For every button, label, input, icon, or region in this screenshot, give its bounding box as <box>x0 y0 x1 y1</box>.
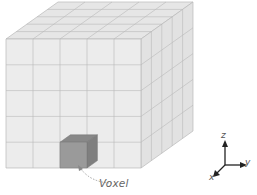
voxel-label: Voxel <box>99 177 129 189</box>
axes-triad-icon <box>213 140 247 177</box>
highlighted-voxel <box>60 135 97 168</box>
x-axis-label: x <box>209 172 214 182</box>
voxel-front-face <box>60 142 87 168</box>
y-axis-label: y <box>245 157 250 167</box>
z-axis-label: z <box>221 130 226 140</box>
z-axis-arrow-icon <box>222 140 228 147</box>
voxel-grid-diagram <box>0 0 257 195</box>
voxel-cube <box>6 2 193 168</box>
